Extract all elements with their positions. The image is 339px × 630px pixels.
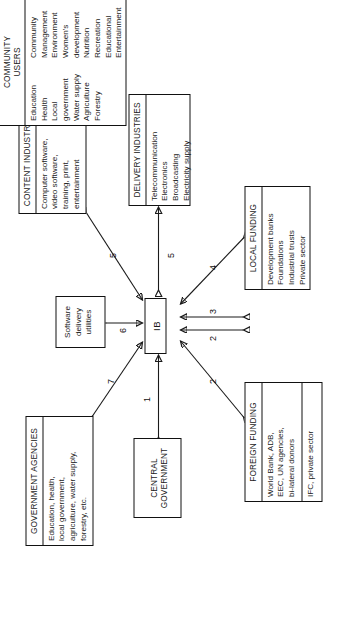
box-delivery-industries-body: Telecommunication Electronics Broadcasti… [146,95,196,205]
box-central-government-header: CENTRAL GOVERNMENT [134,439,184,517]
edge-label-2-foreign: 2 [208,379,217,384]
edge-label-1: 1 [142,397,151,402]
box-community-users-body: Education Health Local government Water … [25,62,128,125]
box-delivery-industries[interactable]: DELIVERY INDUSTRIES Telecommunication El… [128,94,190,206]
box-software-delivery-utilities-body: Software delivery utilities [56,297,98,347]
box-local-funding-body: Development banks Foundations Industrial… [262,187,312,289]
box-delivery-industries-header: DELIVERY INDUSTRIES [129,95,146,205]
box-local-funding[interactable]: LOCAL FUNDING Development banks Foundati… [244,186,310,290]
edge-label-7: 7 [106,379,115,384]
box-community-users[interactable]: COMMUNITY USERS Education Health Local g… [0,0,126,126]
box-local-funding-header: LOCAL FUNDING [245,187,262,289]
box-community-users-header: COMMUNITY USERS [0,0,25,125]
box-government-agencies-body: Education, health, local government, agr… [43,417,93,545]
box-software-delivery-utilities[interactable]: Software delivery utilities [55,296,105,348]
node-ib-label: IB [150,321,161,331]
diagram-canvas: IB CENTRAL GOVERNMENT GOVERNMENT AGENCIE… [0,0,339,630]
box-government-agencies[interactable]: GOVERNMENT AGENCIES Education, health, l… [25,416,93,546]
box-foreign-funding-body: World Bank, ADB, EEC, UN agencies, bi-la… [262,383,301,501]
edge-label-2-ifc: 2 [208,336,217,341]
edge-label-4: 4 [208,265,217,270]
edge-label-5-content: 5 [108,253,117,258]
diagram-stage: IB CENTRAL GOVERNMENT GOVERNMENT AGENCIE… [0,0,339,630]
box-foreign-funding-body-secondary: IFC, private sector [301,383,320,501]
box-foreign-funding[interactable]: FOREIGN FUNDING World Bank, ADB, EEC, UN… [244,382,322,502]
box-central-government[interactable]: CENTRAL GOVERNMENT [133,438,181,518]
edge-label-6: 6 [118,328,127,333]
box-foreign-funding-header: FOREIGN FUNDING [245,383,262,501]
box-community-users-body-secondary: Community Management Environment Women's… [25,0,128,62]
edge-label-3: 3 [208,309,217,314]
edge-label-5-delivery: 5 [166,253,175,258]
node-ib[interactable]: IB [144,298,166,354]
box-government-agencies-header: GOVERNMENT AGENCIES [26,417,43,545]
